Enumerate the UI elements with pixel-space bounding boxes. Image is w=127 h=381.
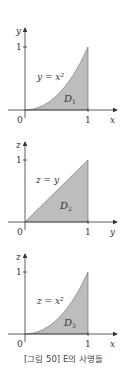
- vertical-axis-label: z: [15, 252, 21, 262]
- projection-diagrams: y x 0 1 1 y = x² D1 z y 0 1 1 z = y D2 z…: [0, 0, 127, 381]
- origin-label: 0: [17, 339, 23, 349]
- tick-h-label: 1: [85, 115, 91, 125]
- vertical-axis-label: z: [15, 140, 21, 150]
- region-D2: [25, 160, 88, 222]
- origin-label: 0: [17, 115, 23, 125]
- horizontal-axis-label: x: [110, 115, 115, 125]
- curve-label: z = x²: [36, 296, 64, 306]
- horizontal-axis-label: y: [109, 227, 116, 237]
- curve-label: z = y: [35, 175, 60, 185]
- tick-v-label: 1: [16, 42, 22, 52]
- panel-1-projection-D1: y x 0 1 1 y = x² D1: [8, 26, 117, 125]
- tick-v-label: 1: [16, 267, 22, 277]
- figure-caption: [그림 50] E의 사영들: [0, 352, 127, 364]
- tick-v-label: 1: [16, 155, 22, 165]
- panel-2-projection-D2: z y 0 1 1 z = y D2: [8, 140, 117, 237]
- vertical-axis-label: y: [15, 26, 22, 36]
- horizontal-axis-label: x: [110, 339, 115, 349]
- tick-h-label: 1: [85, 339, 91, 349]
- origin-label: 0: [17, 227, 23, 237]
- tick-h-label: 1: [85, 227, 91, 237]
- curve-label: y = x²: [36, 72, 64, 82]
- panel-3-projection-D3: z x 0 1 1 z = x² D3: [8, 252, 117, 349]
